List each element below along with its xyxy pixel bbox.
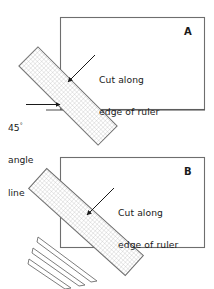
- cut-strip: [37, 237, 97, 282]
- panel-b-callout-line2: edge of ruler: [118, 240, 178, 251]
- panel-a-callout-line1: Cut along: [99, 75, 159, 86]
- panel-a-letter: A: [184, 26, 192, 38]
- angle-value-row: 45°: [8, 121, 34, 134]
- angle-label-line1: angle: [8, 155, 34, 166]
- panel-b-callout: Cut along edge of ruler: [118, 186, 178, 273]
- panel-b-callout-line1: Cut along: [118, 208, 178, 219]
- cut-strip: [28, 259, 71, 289]
- panel-a-callout-arrow: [68, 55, 95, 82]
- degree-symbol: °: [20, 121, 23, 128]
- figure-container: A Cut along edge of ruler 45° angle line…: [0, 0, 214, 289]
- angle-label-line2: line: [8, 188, 34, 199]
- panel-b-letter: B: [184, 166, 192, 178]
- panel-b-cut-strips: [28, 237, 97, 289]
- angle-line-label: 45° angle line: [8, 99, 34, 221]
- panel-b-callout-arrow: [87, 188, 114, 215]
- panel-a-callout-line2: edge of ruler: [99, 107, 159, 118]
- panel-a-callout: Cut along edge of ruler: [99, 53, 159, 140]
- angle-value: 45: [8, 122, 20, 133]
